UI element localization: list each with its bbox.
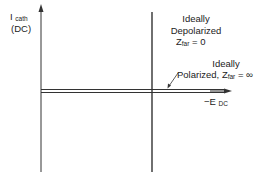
x-axis-label-main: −E xyxy=(204,96,216,107)
y-axis-label-sub: cath xyxy=(15,15,27,22)
polarized-label-prefix: Polarized, Z xyxy=(177,69,228,80)
depolarized-z-value: = 0 xyxy=(192,36,205,47)
polarized-label-line1: Ideally xyxy=(198,58,254,69)
y-axis-label-main: I xyxy=(10,11,13,22)
x-axis-label-sub: DC xyxy=(219,100,228,107)
depolarized-label-line1: Ideally xyxy=(168,13,224,24)
x-axis-label: −E DC xyxy=(204,96,228,109)
x-axis-arrow-icon xyxy=(224,89,232,94)
y-axis-arrow-icon xyxy=(39,4,44,12)
depolarized-label-line2: Depolarized xyxy=(163,25,229,36)
polarized-label-line2: Polarized, Zfar = ∞ xyxy=(177,69,253,82)
polarized-z-sub: far xyxy=(228,73,236,80)
depolarized-z-label: Zfar = 0 xyxy=(176,36,206,49)
y-axis-label-line2: (DC) xyxy=(11,23,31,34)
depolarized-z-sub: far xyxy=(182,40,190,47)
polarized-z-value: = ∞ xyxy=(238,69,253,80)
